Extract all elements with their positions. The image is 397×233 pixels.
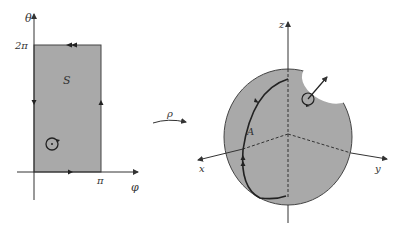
rho-arrow-icon <box>153 120 186 123</box>
map-arrow: ρ <box>153 108 186 123</box>
diagram-canvas: θ 2π π φ S ρ z x y A <box>0 0 397 233</box>
y-axis-label: y <box>374 163 381 174</box>
orientation-center-dot <box>51 143 53 145</box>
theta-axis-label: θ <box>25 12 32 25</box>
tick-pi-label: π <box>96 175 104 186</box>
phi-axis-label: φ <box>131 181 139 194</box>
sphere-plot: z x y A <box>198 19 387 223</box>
x-axis-label: x <box>199 163 205 174</box>
z-axis-label: z <box>278 19 285 30</box>
curve-a-label: A <box>246 126 254 137</box>
y-axis <box>351 153 387 159</box>
region-s-label: S <box>63 74 71 87</box>
region-s <box>34 45 101 172</box>
tick-2pi-label: 2π <box>14 40 28 51</box>
parameter-domain-plot: θ 2π π φ S <box>14 12 139 200</box>
rho-label: ρ <box>166 108 173 119</box>
